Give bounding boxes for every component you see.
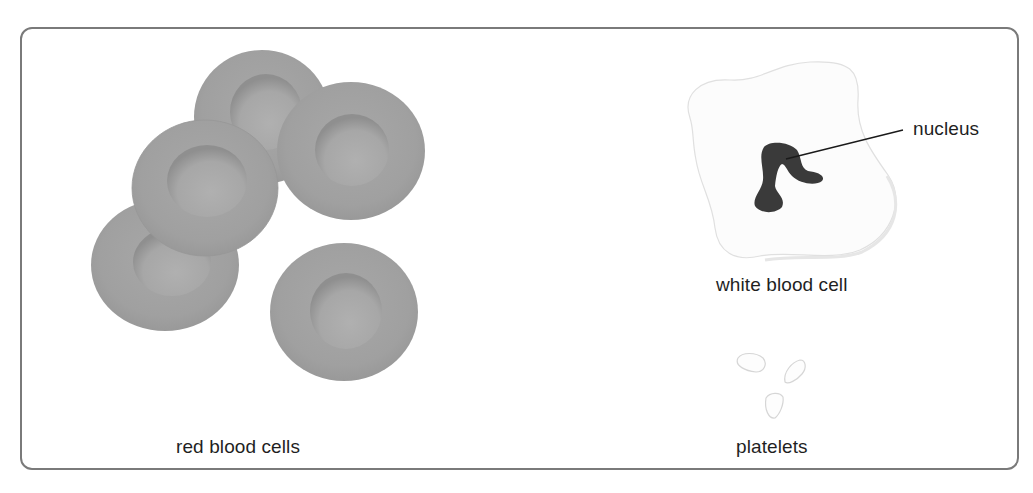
label-red-blood-cells: red blood cells bbox=[176, 436, 300, 458]
platelet-1 bbox=[737, 354, 765, 373]
platelets-group bbox=[737, 354, 805, 419]
red-blood-cell-lower-right bbox=[270, 243, 418, 381]
label-nucleus: nucleus bbox=[913, 118, 979, 140]
white-blood-cell bbox=[688, 62, 896, 260]
label-white-blood-cell: white blood cell bbox=[716, 274, 848, 296]
blood-cells-illustration bbox=[0, 0, 1033, 493]
red-blood-cell-middle bbox=[132, 120, 278, 256]
platelet-3 bbox=[766, 393, 784, 418]
platelet-2 bbox=[785, 360, 805, 383]
red-blood-cell-right bbox=[277, 82, 425, 220]
red-blood-cells-group bbox=[91, 50, 425, 381]
label-platelets: platelets bbox=[736, 436, 808, 458]
